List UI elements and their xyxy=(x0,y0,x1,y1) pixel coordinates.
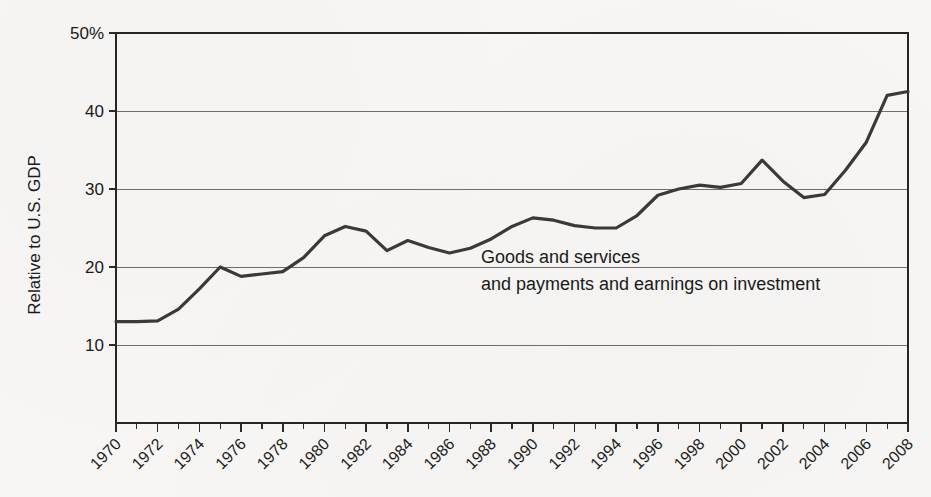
y-tick-label-30: 30 xyxy=(85,180,104,199)
y-tick-label-40: 40 xyxy=(85,102,104,121)
y-tick-label-10: 10 xyxy=(85,336,104,355)
line-chart: 50%40302010 1970197219741976197819801982… xyxy=(0,0,931,497)
y-tick-label-20: 20 xyxy=(85,258,104,277)
y-tick-label-50: 50% xyxy=(70,24,104,43)
series-label-line-2: and payments and earnings on investment xyxy=(481,274,820,294)
chart-figure: 50%40302010 1970197219741976197819801982… xyxy=(0,0,931,497)
y-axis-title: Relative to U.S. GDP xyxy=(25,155,44,315)
series-label-line-1: Goods and services xyxy=(481,247,640,267)
